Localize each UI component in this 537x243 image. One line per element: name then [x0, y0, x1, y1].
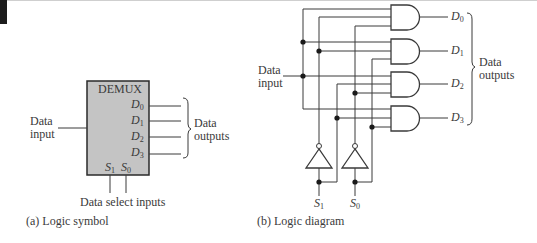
diagram-select-s0: S0: [350, 197, 360, 213]
symbol-output-d1: D1: [131, 114, 144, 130]
symbol-data-input-label-2: input: [30, 128, 55, 141]
inverter-s1: [306, 149, 332, 168]
symbol-caption: (a) Logic symbol: [26, 215, 109, 228]
and-gate-1: [391, 39, 419, 64]
diagram-output-d3: D3: [451, 111, 464, 127]
symbol-data-outputs-label-2: outputs: [194, 130, 229, 143]
diagram-outputs-brace: [467, 13, 475, 125]
symbol-output-d3: D3: [131, 146, 144, 162]
symbol-select-s0: S0: [121, 161, 131, 177]
inverter-s0-bubble: [353, 144, 358, 149]
symbol-select-label: Data select inputs: [80, 196, 165, 209]
inverter-s1-bubble: [317, 144, 322, 149]
demux-title: DEMUX: [98, 83, 142, 96]
symbol-output-d0: D0: [131, 98, 144, 114]
symbol-outputs-brace: [183, 98, 191, 158]
symbol-select-s1: S1: [105, 161, 115, 177]
and-gate-2: [391, 72, 419, 97]
diagram-output-d0: D0: [451, 10, 464, 26]
diagram-select-s1: S1: [314, 197, 324, 213]
and-gate-3: [391, 106, 419, 131]
diagram-data-outputs-label-2: outputs: [479, 69, 514, 82]
diagram-caption: (b) Logic diagram: [257, 215, 344, 228]
diagram-data-input-label-2: input: [258, 77, 283, 90]
diagram-output-d2: D2: [451, 77, 464, 93]
diagram-output-d1: D1: [451, 44, 464, 60]
inverter-s0: [342, 149, 368, 168]
and-gate-0: [391, 5, 419, 30]
symbol-output-d2: D2: [131, 130, 144, 146]
